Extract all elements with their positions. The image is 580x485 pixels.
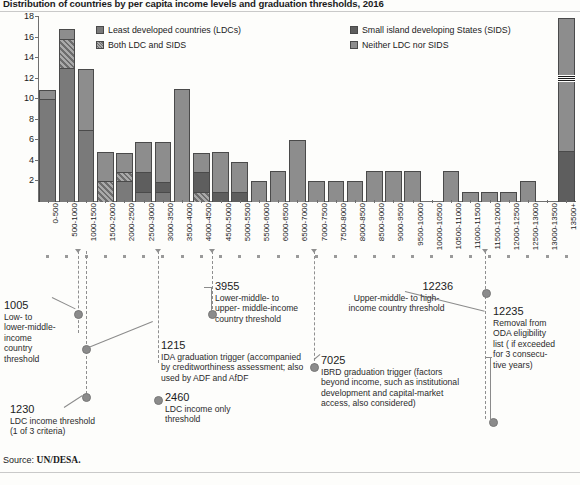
threshold-tick-dot <box>565 255 568 258</box>
y-tick-label-12: 12 <box>24 73 34 83</box>
source-value: UN/DESA. <box>37 455 81 465</box>
page-title: Distribution of countries by per capita … <box>3 0 563 9</box>
bar-segment-neither <box>78 69 95 131</box>
threshold-arrow-2460 <box>155 249 161 253</box>
threshold-tick-dot <box>181 255 184 258</box>
threshold-tick-dot <box>469 255 472 258</box>
x-tick-mark-11000-11500 <box>470 200 471 203</box>
bar-8500-9000[interactable] <box>366 171 383 201</box>
bar-9500-10000[interactable] <box>404 171 421 201</box>
bar-segment-neither <box>328 181 345 202</box>
bar-3000-3500[interactable] <box>155 142 172 201</box>
annotation-1230-value: 1230 <box>10 403 130 416</box>
bar-segment-neither <box>404 171 421 202</box>
bar-segment-sids <box>558 151 575 202</box>
annotation-2460-line1: LDC income only <box>165 404 230 414</box>
annotation-1215-line3: used by ADF and AfDF <box>161 373 248 383</box>
bar-500-1000[interactable] <box>59 29 76 201</box>
threshold-tick-dot <box>334 255 337 258</box>
threshold-annotation-band: 1005 Low- to lower-middle- income countr… <box>38 255 576 455</box>
bar-segment-neither <box>174 89 191 202</box>
bar-2500-3000[interactable] <box>135 142 152 201</box>
threshold-node-2460[interactable] <box>154 396 163 405</box>
x-tick-label-2000-2500: 2000-2500 <box>127 203 136 241</box>
x-axis-ticks: 0-500500-10001000-15001500-20002000-2500… <box>38 203 576 251</box>
annotation-1005: 1005 Low- to lower-middle- income countr… <box>4 299 70 364</box>
legend-item-sids: Small island developing States (SIDS) <box>350 25 511 35</box>
y-tick-label-6: 6 <box>29 134 34 144</box>
threshold-tick-dot <box>546 255 549 258</box>
y-tick-label-16: 16 <box>24 32 34 42</box>
threshold-dot-row <box>38 255 576 261</box>
bar-4500-5000[interactable] <box>212 152 229 201</box>
legend-item-neither: Neither LDC nor SIDS <box>350 40 449 50</box>
bar-segment-neither <box>116 153 133 174</box>
annotation-3955-line1: Lower-middle- to <box>215 293 279 303</box>
bar-9000-9500[interactable] <box>385 171 402 201</box>
y-tick-label-18: 18 <box>24 11 34 21</box>
threshold-tick-dot <box>257 255 260 258</box>
bar-segment-ldc <box>116 181 133 202</box>
axis-break-marker <box>558 75 575 82</box>
x-tick-label-3000-3500: 3000-3500 <box>166 203 175 241</box>
threshold-tick-dot <box>65 255 68 258</box>
threshold-node-7025[interactable] <box>310 363 319 372</box>
bar-5000-5500[interactable] <box>231 162 248 201</box>
bar-5500-6000[interactable] <box>251 181 268 201</box>
y-tick-label-4: 4 <box>29 155 34 165</box>
bar-4000-4500[interactable] <box>193 153 210 201</box>
y-tick-label-8: 8 <box>29 114 34 124</box>
bar-segment-neither <box>251 181 268 202</box>
x-tick-label-500-1000: 500-1000 <box>70 203 79 237</box>
annotation-12235-value: 12235 <box>493 305 573 318</box>
x-tick-label-10000-10500: 10000-10500 <box>435 203 444 250</box>
bar-6500-7000[interactable] <box>289 140 306 201</box>
annotation-1005-line4: country <box>4 343 32 353</box>
bar-2000-2500[interactable] <box>116 153 133 201</box>
bar-1000-1500[interactable] <box>78 69 95 201</box>
y-tick-label-2: 2 <box>29 175 34 185</box>
threshold-node-1005[interactable] <box>74 310 83 319</box>
bar-0-500[interactable] <box>39 90 56 201</box>
x-tick-mark-2500-3000 <box>144 200 145 203</box>
top-divider <box>0 11 580 12</box>
threshold-tick-dot <box>450 255 453 258</box>
x-tick-mark-11500-12000 <box>490 200 491 203</box>
threshold-node-1230[interactable] <box>82 393 91 402</box>
bar-segment-ldc <box>39 99 56 202</box>
x-tick-mark-6500-7000 <box>297 200 298 203</box>
x-tick-label-6000-6500: 6000-6500 <box>281 203 290 241</box>
threshold-tick-dot <box>161 255 164 258</box>
threshold-tick-dot <box>219 255 222 258</box>
annotation-12236-value: 12236 <box>334 280 459 293</box>
x-tick-label-13500+: 13500+ <box>569 203 578 230</box>
x-tick-label-12000-12500: 12000-12500 <box>512 203 521 250</box>
bar-3500-4000[interactable] <box>174 89 191 201</box>
annotation-1005-line2: lower-middle- <box>4 322 56 332</box>
bar-6000-6500[interactable] <box>270 171 287 201</box>
x-tick-mark-10000-10500 <box>432 200 433 203</box>
annotation-3955-value: 3955 <box>215 280 325 293</box>
x-tick-mark-8000-8500 <box>355 200 356 203</box>
bottom-divider <box>0 472 580 473</box>
threshold-tick-dot <box>488 255 491 258</box>
x-tick-mark-4000-4500 <box>201 200 202 203</box>
x-tick-label-12500-13000: 12500-13000 <box>531 203 540 250</box>
x-tick-label-2500-3000: 2500-3000 <box>147 203 156 241</box>
bar-1500-2000[interactable] <box>97 152 114 201</box>
x-tick-mark-10500-11000 <box>451 200 452 203</box>
threshold-arrow-12235 <box>482 249 488 253</box>
bar-10500-11000[interactable] <box>443 171 460 201</box>
annotation-2460-value: 2460 <box>165 391 275 404</box>
bar-8000-8500[interactable] <box>347 181 364 201</box>
threshold-tick-dot <box>123 255 126 258</box>
threshold-line-2460 <box>158 251 159 363</box>
threshold-tick-dot <box>46 255 49 258</box>
threshold-arrow-7025 <box>311 249 317 253</box>
annotation-7025-line4: access, also considered) <box>321 398 416 408</box>
bar-7000-7500[interactable] <box>308 181 325 201</box>
bar-7500-8000[interactable] <box>328 181 345 201</box>
threshold-node-12236[interactable] <box>482 289 491 298</box>
bar-12500-13000[interactable] <box>520 181 537 201</box>
threshold-arrow-1005 <box>75 249 81 253</box>
